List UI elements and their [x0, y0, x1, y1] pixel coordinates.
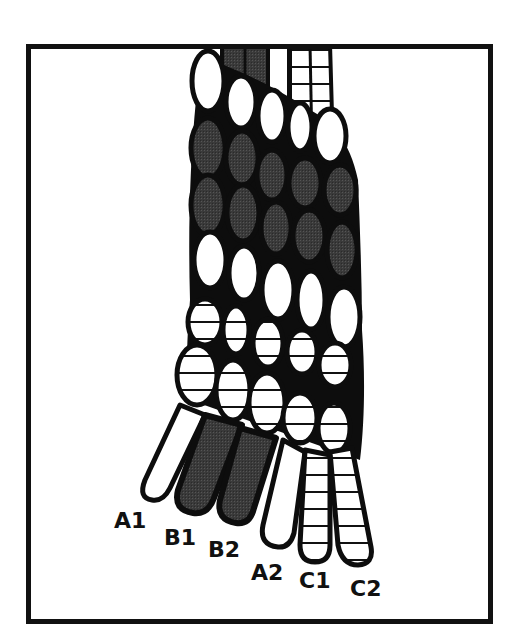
- label-B2: B2: [208, 537, 240, 562]
- label-B1: B1: [164, 525, 196, 550]
- label-C1: C1: [299, 568, 330, 593]
- strand-C2: [330, 448, 371, 565]
- braid: [143, 44, 372, 565]
- braid-diagram: A1 B1 B2 A2 C1 C2: [0, 0, 514, 640]
- strand-C1: [300, 450, 330, 562]
- label-C2: C2: [350, 576, 381, 601]
- label-A1: A1: [114, 508, 146, 533]
- label-A2: A2: [251, 560, 283, 585]
